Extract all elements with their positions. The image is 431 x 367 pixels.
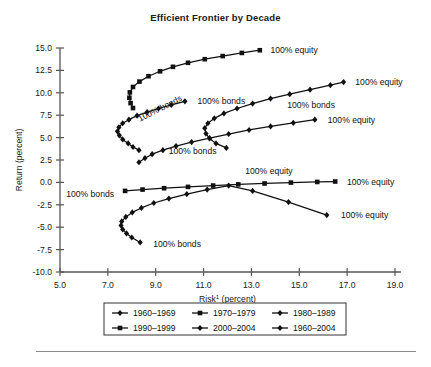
series-marker: [258, 48, 263, 53]
efficient-frontier-plot: 15.012.510.07.55.02.50.0-2.5-5.0-7.5-10.…: [0, 0, 431, 367]
series-marker: [246, 127, 251, 133]
series-marker: [220, 54, 225, 59]
y-tick-label: -5.0: [37, 222, 52, 232]
series-6: [136, 117, 317, 166]
point-annotation: 100% bonds: [66, 189, 114, 199]
series-marker: [140, 187, 145, 192]
series-marker: [289, 180, 294, 185]
point-annotation: 100% equity: [328, 115, 376, 125]
series-marker: [226, 182, 231, 188]
chart-figure: Efficient Frontier by Decade 15.012.510.…: [0, 0, 431, 367]
point-annotation: 100% equity: [347, 177, 395, 187]
series-marker: [123, 189, 128, 194]
point-annotation: 100% equity: [341, 210, 389, 220]
legend-label: 1990–1999: [133, 323, 176, 333]
series-marker: [250, 188, 255, 194]
bottom-divider-rule: [36, 351, 416, 352]
point-annotation: 100% bonds: [287, 100, 335, 110]
series-marker: [328, 82, 333, 88]
y-axis-title: Return (percent): [14, 129, 24, 192]
series-marker: [186, 60, 191, 65]
series-marker: [146, 74, 151, 79]
series-marker: [136, 147, 141, 153]
series-marker: [268, 123, 273, 129]
x-tick-label: 9.0: [150, 280, 162, 290]
x-tick-label: 17.0: [339, 280, 356, 290]
series-marker: [312, 117, 317, 123]
series-marker: [171, 65, 176, 70]
series-marker: [226, 131, 231, 137]
point-annotation: 100% bonds: [136, 93, 183, 124]
series-marker: [126, 140, 131, 146]
series-marker: [224, 145, 229, 151]
series-marker: [315, 180, 320, 185]
x-tick-label: 11.0: [196, 280, 212, 290]
series-marker: [136, 159, 141, 165]
series-marker: [268, 96, 273, 102]
series-line: [205, 82, 344, 148]
series-3: [202, 79, 346, 151]
series-marker: [205, 186, 210, 192]
series-marker: [139, 205, 144, 211]
y-tick-label: 5.0: [40, 133, 52, 143]
series-marker: [221, 110, 226, 116]
y-tick-label: 2.5: [40, 155, 52, 165]
series-marker: [130, 209, 135, 215]
series-marker: [166, 195, 171, 201]
series-marker: [240, 51, 245, 56]
series-marker: [333, 179, 338, 184]
series-marker: [128, 101, 133, 106]
y-tick-label: 7.5: [40, 110, 52, 120]
y-tick-label: 15.0: [35, 43, 52, 53]
series-marker: [307, 87, 312, 93]
point-annotation: 100% equity: [355, 77, 403, 87]
series-marker: [128, 90, 133, 95]
series-marker: [236, 182, 241, 187]
series-line: [121, 186, 327, 243]
y-tick-label: 0.0: [40, 177, 52, 187]
series-marker: [341, 79, 346, 85]
series-marker: [160, 147, 165, 153]
legend-label: 1980–1989: [293, 308, 336, 318]
series-marker: [162, 186, 167, 191]
series-marker: [118, 326, 123, 331]
point-annotation: 100% bonds: [197, 96, 245, 106]
series-marker: [287, 91, 292, 97]
series-marker: [138, 239, 143, 245]
series-marker: [158, 69, 163, 74]
series-5: [118, 182, 329, 245]
legend-label: 2000–2004: [213, 323, 256, 333]
series-marker: [198, 311, 203, 316]
series-marker: [150, 151, 155, 157]
series-marker: [131, 106, 136, 111]
series-marker: [126, 117, 131, 123]
legend-label: 1970–1979: [213, 308, 256, 318]
series-marker: [130, 144, 135, 150]
series-marker: [189, 139, 194, 145]
point-annotation: 100% bonds: [169, 146, 217, 156]
series-marker: [127, 95, 132, 100]
series-line: [139, 120, 315, 163]
y-tick-label: 12.5: [35, 65, 52, 75]
point-annotation: 100% bonds: [153, 239, 201, 249]
series-marker: [137, 79, 142, 84]
x-tick-label: 5.0: [54, 280, 66, 290]
x-tick-label: 15.0: [291, 280, 308, 290]
series-marker: [291, 120, 296, 126]
point-annotation: 100% equity: [245, 166, 293, 176]
chart-legend: 1960–19691970–19791980–19891990–19992000…: [104, 303, 346, 335]
x-tick-label: 7.0: [102, 280, 114, 290]
y-tick-label: -7.5: [37, 245, 52, 255]
series-marker: [202, 57, 207, 62]
series-marker: [262, 181, 267, 186]
series-marker: [211, 183, 216, 188]
x-tick-label: 13.0: [243, 280, 260, 290]
y-tick-label: -2.5: [37, 200, 52, 210]
series-marker: [184, 191, 189, 197]
series-marker: [186, 185, 191, 190]
y-tick-label: 10.0: [35, 88, 52, 98]
series-marker: [142, 155, 147, 161]
point-annotation: 100% equity: [270, 45, 318, 55]
y-tick-label: -10.0: [32, 267, 52, 277]
series-marker: [324, 212, 329, 218]
